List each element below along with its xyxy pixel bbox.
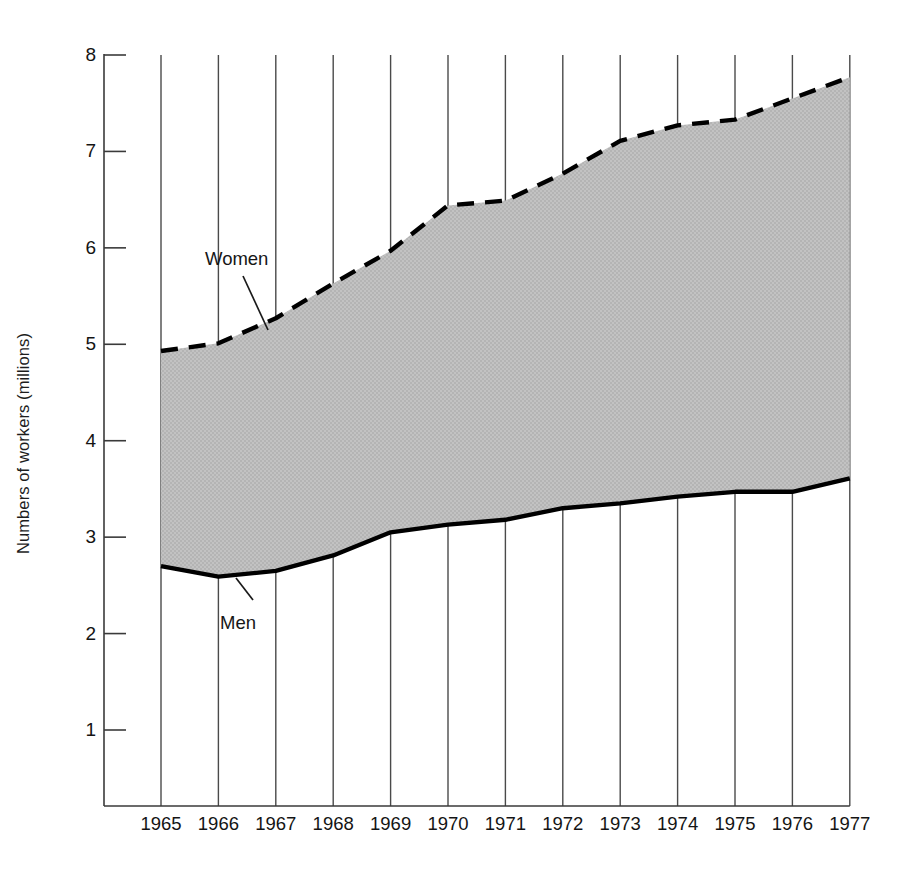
leader-line-women	[243, 276, 268, 330]
series-label-men: Men	[220, 612, 256, 634]
x-tick-label-1969: 1969	[370, 813, 411, 835]
x-tick-label-1970: 1970	[427, 813, 468, 835]
y-tick-label-5: 5	[66, 333, 96, 355]
x-tick-label-1973: 1973	[600, 813, 641, 835]
x-tick-label-1977: 1977	[829, 813, 870, 835]
y-tick-label-4: 4	[66, 430, 96, 452]
x-tick-label-1968: 1968	[313, 813, 354, 835]
x-tick-label-1966: 1966	[198, 813, 239, 835]
x-tick-label-1967: 1967	[255, 813, 296, 835]
y-tick-label-2: 2	[66, 623, 96, 645]
x-tick-label-1972: 1972	[542, 813, 583, 835]
y-tick-label-3: 3	[66, 526, 96, 548]
x-tick-label-1975: 1975	[714, 813, 755, 835]
y-tick-label-7: 7	[66, 140, 96, 162]
x-tick-label-1965: 1965	[140, 813, 181, 835]
y-tick-label-8: 8	[66, 44, 96, 66]
x-tick-label-1976: 1976	[772, 813, 813, 835]
chart-plot-area	[0, 0, 902, 887]
y-axis-ticks	[104, 55, 126, 730]
x-tick-label-1974: 1974	[657, 813, 698, 835]
leader-line-men	[236, 578, 253, 600]
chart-container: Numbers of workers (millions) 12345678 1…	[0, 0, 902, 887]
x-tick-label-1971: 1971	[485, 813, 526, 835]
y-tick-label-6: 6	[66, 237, 96, 259]
y-tick-label-1: 1	[66, 719, 96, 741]
series-label-women: Women	[205, 248, 268, 270]
